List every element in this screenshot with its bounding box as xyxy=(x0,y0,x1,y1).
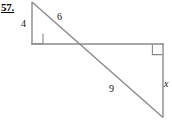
right-angle-marker-left xyxy=(33,34,43,44)
segment-transversal-hypotenuse xyxy=(32,2,163,118)
side-label-9: 9 xyxy=(109,84,114,94)
side-label-6: 6 xyxy=(57,12,62,22)
side-label-x: x xyxy=(164,79,168,89)
side-label-4: 4 xyxy=(21,19,26,29)
figure-page: 57. 4 6 9 x xyxy=(0,0,172,126)
right-angle-marker-right xyxy=(152,45,162,55)
